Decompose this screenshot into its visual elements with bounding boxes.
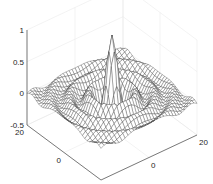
- y-tick-label: 20: [15, 128, 24, 137]
- y-tick-label: -20: [86, 183, 98, 184]
- x-tick-label: 0: [151, 161, 156, 170]
- z-tick-label: 1: [20, 26, 25, 35]
- y-tick-label: 0: [57, 156, 62, 165]
- x-tick-label: 20: [199, 138, 208, 147]
- x-tick-label: -20: [103, 183, 115, 184]
- surface-mesh: [27, 35, 197, 148]
- mesh-plot: 10.50-0.5200-20-20020: [0, 0, 213, 184]
- z-tick-label: 0.5: [13, 58, 25, 67]
- z-tick-label: 0: [20, 89, 25, 98]
